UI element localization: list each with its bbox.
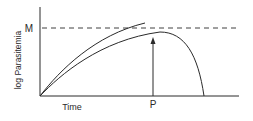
untreated-curve: [40, 23, 145, 96]
m-label: M: [25, 23, 33, 34]
p-label: P: [150, 99, 157, 110]
y-axis-label: log Parasitemia: [13, 30, 23, 89]
diagram-canvas: M P Time log Parasitemia: [0, 0, 253, 121]
x-axis-label: Time: [62, 102, 82, 112]
arrow-head-icon: [151, 37, 156, 44]
treated-curve: [40, 32, 204, 96]
